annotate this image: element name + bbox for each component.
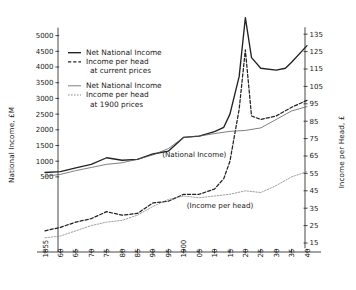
secondary-y-axis-title: Income per Head, £: [337, 116, 346, 189]
national-income-line-chart: 500100015002000250030003500400045005000 …: [0, 0, 356, 290]
legend-label-1: Income per head: [86, 57, 149, 66]
x-axis-tick-label: 25: [257, 249, 265, 258]
chart-annotation-0: (National Income): [162, 150, 226, 159]
x-axis-tick-label: 85: [134, 249, 142, 258]
legend-label-0: Net National Income: [86, 48, 162, 57]
right-axis-tick-label: 105: [310, 83, 323, 91]
right-axis-tick-label: 65: [310, 152, 319, 160]
right-axis-tick-label: 55: [310, 170, 319, 178]
left-axis-tick-label: 3000: [36, 95, 54, 103]
right-axis-tick-label: 135: [310, 31, 323, 39]
x-axis-tick-label: 90: [149, 249, 157, 258]
x-axis-tick-label: 60: [57, 249, 65, 258]
y-axis-title: National Income, £M: [7, 107, 16, 183]
x-axis-tick-label: 70: [88, 249, 96, 258]
x-axis-tick-label: 65: [72, 249, 80, 258]
legend-label-2: Net National Income: [86, 81, 162, 90]
left-axis-tick-label: 1500: [36, 142, 54, 150]
legend-sublabel-1: at current prices: [90, 66, 151, 75]
left-axis-tick-label: 2500: [36, 111, 54, 119]
left-axis-tick-label: 4500: [36, 48, 54, 56]
left-axis-tick-label: 3500: [36, 79, 54, 87]
right-axis-tick-label: 125: [310, 48, 323, 56]
chart-annotation-1: (Income per head): [187, 201, 254, 210]
right-axis-tick-label: 115: [310, 65, 323, 73]
chart-figure: 500100015002000250030003500400045005000 …: [0, 0, 356, 290]
x-axis-tick-label: 15: [227, 249, 235, 258]
right-axis-tick-label: 85: [310, 118, 319, 126]
x-axis-tick-label: 35: [288, 249, 296, 258]
right-axis-tick-label: 95: [310, 100, 319, 108]
x-axis-tick-label: 40: [304, 249, 312, 258]
left-axis-tick-label: 500: [40, 173, 53, 181]
legend-sublabel-3: at 1900 prices: [90, 100, 143, 109]
legend-label-3: Income per head: [86, 90, 149, 99]
left-axis-tick-label: 4000: [36, 63, 54, 71]
right-axis-tick-label: 45: [310, 187, 319, 195]
right-axis-tick-label: 15: [310, 239, 319, 247]
x-axis-tick-label: 1900: [180, 240, 188, 258]
right-axis-tick-label: 75: [310, 135, 319, 143]
x-axis-tick-label: 05: [196, 249, 204, 258]
left-axis-tick-label: 1000: [36, 158, 54, 166]
x-axis-tick-label: 75: [103, 249, 111, 258]
right-axis-tick-label: 35: [310, 205, 319, 213]
left-axis-tick-label: 2000: [36, 126, 54, 134]
x-axis-tick-label: 20: [242, 249, 250, 258]
right-axis-tick-label: 25: [310, 222, 319, 230]
x-axis-tick-label: 95: [165, 249, 173, 258]
left-axis-tick-label: 5000: [36, 32, 54, 40]
x-axis-tick-label: 1855: [42, 240, 50, 258]
x-axis-tick-label: 30: [273, 249, 281, 258]
x-axis-tick-label: 10: [211, 249, 219, 258]
x-axis-tick-label: 80: [119, 249, 127, 258]
